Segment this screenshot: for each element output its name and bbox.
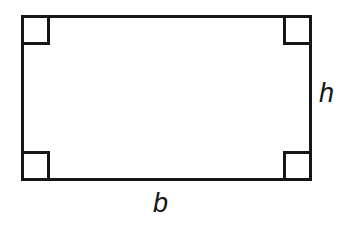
geometry-figure-canvas: h b (0, 0, 344, 231)
base-label: b (153, 190, 168, 217)
height-label: h (319, 80, 334, 107)
rectangle-outline (22, 16, 310, 179)
rectangle-diagram-svg (0, 0, 344, 231)
